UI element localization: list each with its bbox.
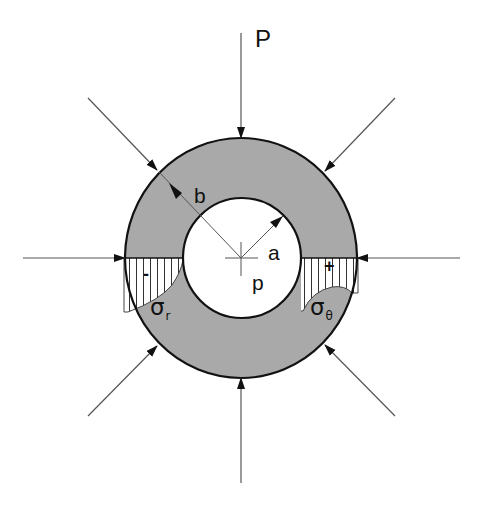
internal-pressure-label: p: [252, 272, 264, 293]
inner-radius-label: a: [268, 242, 280, 263]
external-load-label: P: [255, 27, 271, 51]
hoop-stress-subscript: θ: [326, 309, 333, 323]
load-arrow-top-left: [88, 98, 157, 170]
hoop-stress-label: σθ: [310, 296, 333, 319]
hoop-stress-symbol: σ: [310, 294, 325, 320]
hoop-stress-sign: +: [324, 257, 335, 275]
load-arrow-bottom-right: [325, 345, 395, 416]
radial-stress-sign: -: [143, 265, 149, 283]
outer-radius-label: b: [194, 185, 206, 206]
diagram-canvas: [0, 0, 482, 512]
load-arrow-bottom-left: [88, 346, 157, 416]
load-arrow-top-right: [325, 98, 395, 171]
radial-stress-symbol: σ: [150, 294, 165, 320]
radial-stress-label: σr: [150, 296, 171, 319]
radial-stress-subscript: r: [166, 309, 171, 323]
cylinder-stress-diagram: P b a p σr σθ - +: [0, 0, 482, 512]
